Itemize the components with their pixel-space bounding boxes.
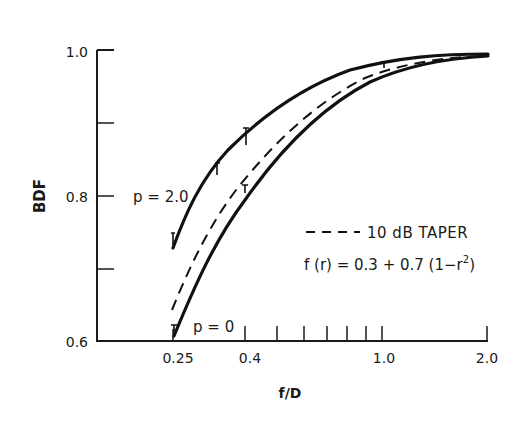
y-tick-label-0-6: 0.6: [66, 334, 88, 350]
y-tick-label-0-8: 0.8: [66, 189, 88, 205]
x-tick-label-0-25: 0.25: [162, 350, 193, 366]
formula-end: ): [469, 256, 475, 274]
legend-taper-label: 10 dB TAPER: [367, 224, 468, 242]
x-tick-label-0-4: 0.4: [239, 350, 261, 366]
x-tick-label-2-0: 2.0: [476, 350, 498, 366]
formula-main: f (r) = 0.3 + 0.7 (1−r: [304, 256, 464, 274]
curve-label-p2: p = 2.0: [133, 188, 188, 206]
legend: 10 dB TAPER f (r) = 0.3 + 0.7 (1−r2): [304, 224, 475, 274]
curve-label-p0: p = 0: [193, 318, 234, 336]
formula: f (r) = 0.3 + 0.7 (1−r2): [304, 254, 475, 274]
curve-p2: [173, 54, 488, 248]
chart: 1.0 0.8 0.6 BDF 0.25 0.4 1.0 2.0 f/D p =…: [0, 0, 515, 423]
x-tick-label-1-0: 1.0: [373, 350, 395, 366]
x-axis-label: f/D: [279, 385, 302, 401]
curve-p0: [174, 56, 488, 336]
y-axis-label: BDF: [31, 179, 49, 213]
y-tick-label-1-0: 1.0: [66, 44, 88, 60]
error-bars: [171, 62, 387, 333]
